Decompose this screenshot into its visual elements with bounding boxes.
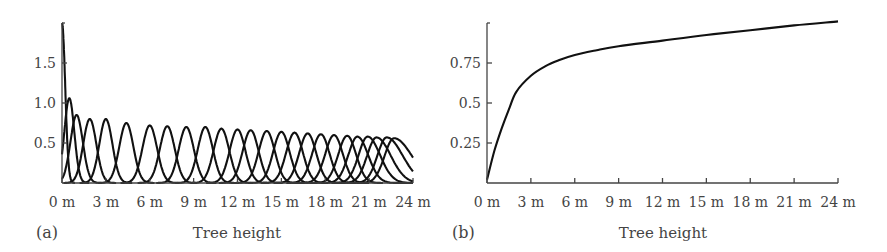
panel-a-x-tick-label: 15 m [264,194,300,210]
panel-b-x-axis-title: Tree height [619,224,707,242]
panel-b-x-tick-label: 15 m [689,194,725,210]
panel-b-y-tick-label: 0.25 [450,135,481,151]
panel-b-x-tick-label: 18 m [732,194,768,210]
panel-a-x-tick-label: 18 m [307,194,343,210]
panel-b-x-tick-label: 24 m [820,194,856,210]
panel-a-x-tick-label: 3 m [93,194,120,210]
panel-b-x-tick-label: 6 m [561,194,588,210]
panel-b-curves [487,21,838,179]
panel-b-y-tick-label: 0.75 [450,55,481,71]
panel-a-x-tick-label: 24 m [395,194,431,210]
panel-b-x-tick-label: 21 m [776,194,812,210]
panel-b-cumulative-curve [487,21,838,179]
panel-b-x-tick-label: 9 m [605,194,632,210]
panel-a-chart: 0 m3 m6 m9 m12 m15 m18 m21 m24 m0.51.01.… [34,23,431,210]
panel-b-x-tick-label: 0 m [474,194,501,210]
panel-b-labels: 0 m3 m6 m9 m12 m15 m18 m21 m24 m0.250.50… [450,55,856,210]
panel-a-y-tick-label: 1.0 [34,95,56,111]
panel-a-x-tick-label: 9 m [180,194,207,210]
panel-b-y-tick-label: 0.5 [459,95,481,111]
panel-a-density-curve [321,137,413,183]
panel-a-x-tick-label: 6 m [136,194,163,210]
panel-a-x-tick-label: 21 m [351,194,387,210]
panel-b-chart: 0 m3 m6 m9 m12 m15 m18 m21 m24 m0.250.50… [450,21,856,210]
panel-a-curves [62,23,413,183]
panel-a-x-tick-label: 0 m [49,194,76,210]
panel-a-y-tick-label: 0.5 [34,135,56,151]
panel-a-label: (a) [36,223,58,242]
figure: 0 m3 m6 m9 m12 m15 m18 m21 m24 m0.51.01.… [0,0,887,252]
panel-b-label: (b) [452,223,475,242]
panel-b-x-tick-label: 3 m [518,194,545,210]
panel-a-y-tick-label: 1.5 [34,55,56,71]
panel-b-x-tick-label: 12 m [645,194,681,210]
panel-a-x-tick-label: 12 m [220,194,256,210]
panel-b-axes [487,23,838,183]
panel-a-x-axis-title: Tree height [193,224,281,242]
